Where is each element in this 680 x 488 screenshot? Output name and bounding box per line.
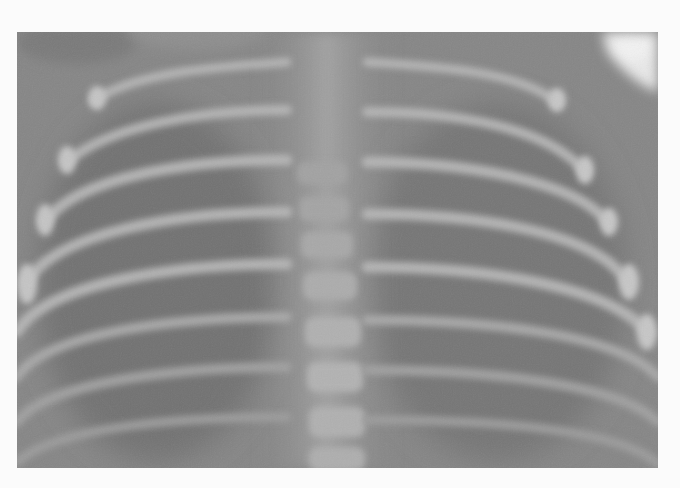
xray-image [17,32,658,468]
film-grain [17,32,658,468]
xray-illustration [17,32,658,468]
